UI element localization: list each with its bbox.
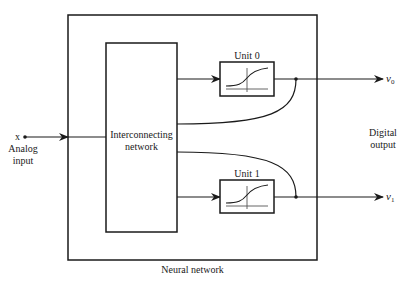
interconnect-line-2: network <box>106 141 177 153</box>
output-v0-label: v0 <box>386 72 394 88</box>
interconnect-label: Interconnecting network <box>106 129 177 153</box>
output-v0-subscript: 0 <box>391 78 395 86</box>
unit-0-block <box>220 62 274 96</box>
neural-network-label: Neural network <box>68 264 317 276</box>
digital-output-line-2: output <box>358 139 408 151</box>
input-symbol-label: x <box>15 131 20 143</box>
analog-input-connector <box>23 135 106 139</box>
unit-1-block <box>220 180 274 213</box>
output-v1-label: v1 <box>386 190 394 206</box>
analog-input-line-2: input <box>4 155 42 167</box>
neural-network-diagram <box>0 0 415 288</box>
output-v1-subscript: 1 <box>391 196 395 204</box>
digital-output-label: Digital output <box>358 127 408 151</box>
analog-input-label: Analog input <box>4 143 42 167</box>
unit-1-label: Unit 1 <box>220 168 274 180</box>
unit-0-label: Unit 0 <box>220 50 274 62</box>
analog-input-line-1: Analog <box>4 143 42 155</box>
interconnect-line-1: Interconnecting <box>106 129 177 141</box>
digital-output-line-1: Digital <box>358 127 408 139</box>
